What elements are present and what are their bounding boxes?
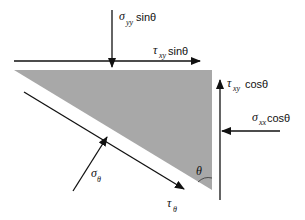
element-triangle bbox=[14, 70, 212, 190]
stress-diagram: σ yy sinθ τ xy sinθ τ xy cosθ σ xx cosθ … bbox=[0, 0, 305, 220]
svg-text:σ: σ bbox=[252, 110, 259, 124]
label-sigma-theta: σ θ bbox=[91, 166, 101, 184]
svg-text:θ: θ bbox=[173, 205, 177, 214]
svg-text:cosθ: cosθ bbox=[267, 112, 290, 124]
svg-text:τ: τ bbox=[227, 76, 232, 90]
svg-text:xx: xx bbox=[258, 118, 267, 127]
label-tau-theta: τ θ bbox=[167, 196, 177, 214]
svg-text:τ: τ bbox=[153, 43, 158, 57]
svg-text:cosθ: cosθ bbox=[245, 78, 268, 90]
label-sigma-yy-sin: σ yy sinθ bbox=[119, 9, 156, 27]
svg-text:σ: σ bbox=[119, 9, 126, 23]
svg-text:sinθ: sinθ bbox=[168, 45, 188, 57]
label-sigma-xx-cos: σ xx cosθ bbox=[252, 110, 290, 127]
label-theta: θ bbox=[196, 164, 202, 178]
svg-text:xy: xy bbox=[232, 84, 241, 93]
svg-text:sinθ: sinθ bbox=[136, 11, 156, 23]
svg-text:yy: yy bbox=[125, 18, 134, 27]
sigma-theta-arrow bbox=[73, 137, 107, 191]
label-tau-xy-sin: τ xy sinθ bbox=[153, 43, 188, 60]
svg-text:τ: τ bbox=[167, 196, 172, 210]
label-tau-xy-cos: τ xy cosθ bbox=[227, 76, 268, 93]
svg-text:θ: θ bbox=[97, 175, 101, 184]
svg-text:xy: xy bbox=[158, 51, 167, 60]
